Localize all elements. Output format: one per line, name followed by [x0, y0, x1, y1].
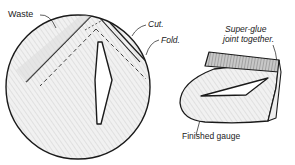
label-fold: Fold.	[161, 35, 180, 45]
disc-outline	[6, 15, 150, 159]
label-cut: Cut.	[148, 19, 164, 29]
fold-leader	[146, 40, 159, 55]
label-waste: Waste	[8, 9, 33, 19]
label-finished-gauge: Finished gauge	[182, 131, 240, 141]
paper-disc	[6, 14, 152, 159]
finished-gauge	[180, 52, 281, 123]
label-glue-line2: joint together.	[223, 34, 274, 44]
cut-leader	[132, 25, 146, 36]
label-glue-line1: Super-glue	[225, 24, 266, 34]
